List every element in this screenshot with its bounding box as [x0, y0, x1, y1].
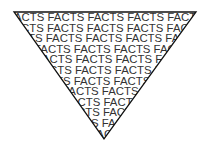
facts-triangle-figure: ACTS FACTS FACTS FACTS FACTS FACTS CTS F…	[0, 0, 209, 144]
triangle-outline	[0, 0, 209, 144]
